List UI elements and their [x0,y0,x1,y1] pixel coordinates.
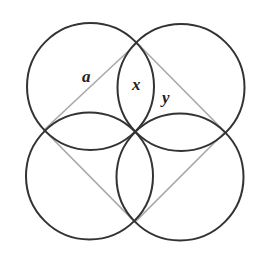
label-x: x [131,75,141,94]
geometry-figure: a x y [0,0,256,255]
label-y: y [160,88,170,107]
label-a: a [82,67,91,86]
four-circles-diagram: a x y [0,0,256,255]
